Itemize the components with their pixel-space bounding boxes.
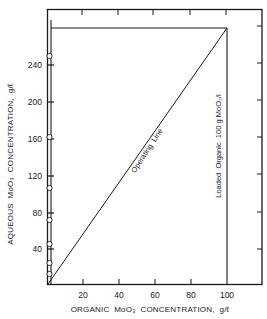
operating-line-label: Operating Line xyxy=(129,127,164,175)
x-axis-ticks xyxy=(83,279,191,284)
chart-svg: 20 40 60 80 100 40 80 120 160 200 240 OR… xyxy=(0,0,267,319)
y-axis-title: AQUEOUS MoO₃ CONCENTRATION, g/ℓ xyxy=(6,83,15,245)
data-point xyxy=(47,53,52,58)
x-tick-label: 60 xyxy=(150,290,160,300)
x-axis-title: ORGANIC MoO₃ CONCENTRATION, g/ℓ xyxy=(71,305,230,314)
y-tick-label: 120 xyxy=(28,171,42,181)
data-point xyxy=(47,217,52,222)
plot-frame xyxy=(48,10,263,285)
data-point xyxy=(47,271,52,276)
data-point xyxy=(47,260,52,265)
x-tick-label: 40 xyxy=(114,290,124,300)
data-point xyxy=(47,134,52,139)
y-tick-label: 160 xyxy=(28,134,42,144)
y-tick-label: 240 xyxy=(28,60,42,70)
y-tick-label: 80 xyxy=(33,208,43,218)
y-tick-label: 200 xyxy=(28,97,42,107)
y-tick-label: 40 xyxy=(33,244,43,254)
x-tick-label: 100 xyxy=(220,290,234,300)
x-tick-label: 80 xyxy=(186,290,196,300)
chart-container: 20 40 60 80 100 40 80 120 160 200 240 OR… xyxy=(0,0,267,319)
loaded-organic-label: Loaded Organic 100 g MoO₃/l xyxy=(214,94,223,198)
data-point xyxy=(47,241,52,246)
x-axis-top-ticks xyxy=(82,10,226,15)
data-point xyxy=(47,185,52,190)
x-tick-label: 20 xyxy=(78,290,88,300)
y-axis-right-ticks xyxy=(257,26,262,249)
